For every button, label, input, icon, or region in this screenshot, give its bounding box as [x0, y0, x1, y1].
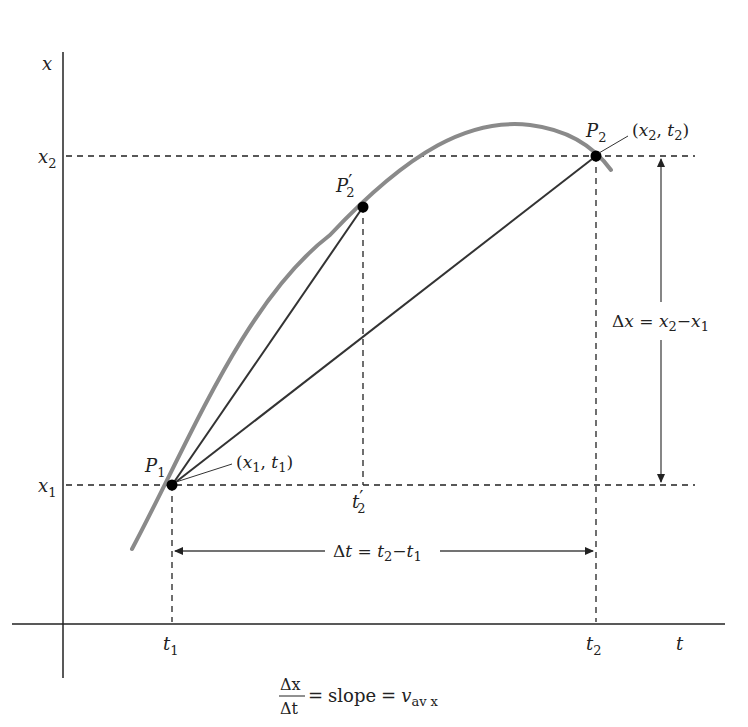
position-time-diagram: x t x2 x1 t1 t2 t′2 P1 P2 P′2 (x1, t1) (…	[0, 0, 748, 727]
p2prime-label: P′2	[335, 171, 355, 200]
t2-tick-label: t2	[586, 633, 602, 658]
t1-tick-label: t1	[163, 633, 179, 658]
point-p1	[167, 480, 178, 491]
x2-tick-label: x2	[38, 146, 56, 171]
p1-label: P1	[144, 455, 165, 480]
secant-p1-p2	[172, 156, 596, 485]
point-p2prime	[358, 202, 369, 213]
caption-denominator: Δt	[280, 699, 299, 718]
delta-x-label: Δx = x2−x1	[612, 311, 709, 334]
vertical-axis-label: x	[42, 53, 52, 74]
caption-numerator: Δx	[280, 675, 301, 694]
caption-rest: =slope=vav x	[308, 685, 439, 709]
p2-coordinate-label: (x2, t2)	[632, 120, 689, 143]
slope-caption: Δx Δt =slope=vav x	[279, 675, 439, 718]
t2prime-tick-label: t′2	[352, 487, 366, 516]
secant-p1-p2prime	[172, 207, 363, 485]
horizontal-axis-label: t	[676, 633, 684, 654]
delta-t-label: Δt = t2−t1	[333, 541, 422, 564]
p2-label: P2	[585, 120, 606, 145]
p1-coordinate-label: (x1, t1)	[236, 452, 293, 475]
x1-tick-label: x1	[38, 475, 56, 500]
